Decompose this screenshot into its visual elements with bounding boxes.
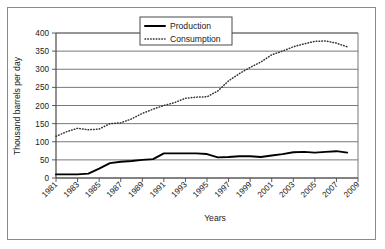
x-tick-label: 2001 <box>256 180 276 200</box>
y-tick-label: 300 <box>35 65 49 74</box>
y-tick-label: 200 <box>35 102 49 111</box>
x-tick-label: 2007 <box>321 180 341 200</box>
y-axis-ticks-group: 050100150200250300350400 <box>35 29 56 183</box>
x-tick-label: 1999 <box>234 180 254 200</box>
x-axis-title: Years <box>204 213 226 223</box>
x-tick-label: 2003 <box>277 180 297 200</box>
legend-label-production: Production <box>170 21 211 31</box>
x-tick-label: 1997 <box>213 180 233 200</box>
x-axis-ticks-group: 1981198319851987198919911993199519971999… <box>40 178 362 199</box>
y-tick-label: 150 <box>35 120 49 129</box>
y-tick-label: 50 <box>40 156 50 165</box>
x-tick-label: 1987 <box>105 180 125 200</box>
y-tick-label: 0 <box>44 174 49 183</box>
x-tick-label: 1995 <box>191 180 211 200</box>
x-tick-label: 1985 <box>83 180 103 200</box>
data-series-group <box>56 41 347 174</box>
y-tick-label: 250 <box>35 83 49 92</box>
x-tick-label: 1989 <box>126 180 146 200</box>
y-tick-label: 400 <box>35 29 49 38</box>
x-tick-label: 1993 <box>170 180 190 200</box>
x-tick-label: 1981 <box>40 180 60 200</box>
x-tick-label: 2005 <box>299 180 319 200</box>
gridlines-group <box>56 33 358 178</box>
series-line-consumption <box>56 41 347 136</box>
legend-label-consumption: Consumption <box>170 34 221 44</box>
x-tick-label: 1991 <box>148 180 168 200</box>
y-tick-label: 100 <box>35 138 49 147</box>
y-tick-label: 350 <box>35 47 49 56</box>
chart-figure: 050100150200250300350400 198119831985198… <box>0 0 385 249</box>
x-tick-label: 2009 <box>342 180 362 200</box>
series-line-production <box>56 151 347 174</box>
line-chart-canvas: 050100150200250300350400 198119831985198… <box>0 0 385 249</box>
chart-legend: ProductionConsumption <box>140 17 232 45</box>
y-axis-title: Thousand barrels per day <box>12 56 22 155</box>
x-tick-label: 1983 <box>62 180 82 200</box>
